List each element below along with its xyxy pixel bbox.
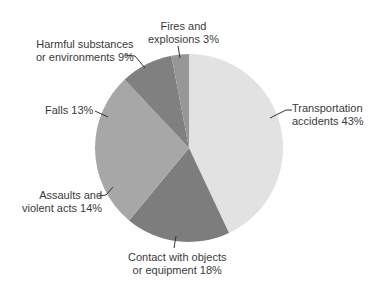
label-line: Contact with objects	[128, 251, 226, 264]
label-line: Falls 13%	[45, 104, 93, 117]
label-line: Harmful substances	[36, 38, 134, 51]
label-line: or environments 9%	[36, 51, 134, 64]
label-assaults: Assaults and violent acts 14%	[22, 189, 102, 215]
label-harmful: Harmful substances or environments 9%	[36, 38, 134, 64]
label-transportation: Transportation accidents 43%	[292, 102, 364, 128]
label-line: Transportation	[292, 102, 364, 115]
label-fires: Fires and explosions 3%	[148, 20, 219, 46]
label-falls: Falls 13%	[45, 104, 93, 117]
label-line: explosions 3%	[148, 33, 219, 46]
label-line: Fires and	[148, 20, 219, 33]
label-line: Assaults and	[22, 189, 102, 202]
pie-slices	[95, 54, 283, 242]
label-contact: Contact with objects or equipment 18%	[128, 251, 226, 277]
label-line: or equipment 18%	[128, 264, 226, 277]
label-line: accidents 43%	[292, 115, 364, 128]
label-line: violent acts 14%	[22, 202, 102, 215]
